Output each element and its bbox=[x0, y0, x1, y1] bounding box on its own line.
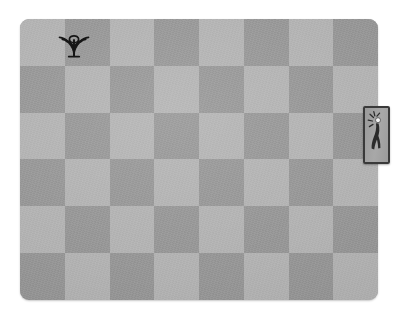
board-square bbox=[110, 206, 155, 253]
scene-root: Top-down photo of a grey checkerboard ma… bbox=[0, 0, 397, 319]
board-square bbox=[289, 159, 334, 206]
board-square bbox=[20, 206, 65, 253]
board-square bbox=[289, 253, 334, 300]
scene-description: Top-down photo of a grey checkerboard ma… bbox=[0, 0, 1, 1]
board-square bbox=[154, 19, 199, 66]
board-square bbox=[199, 113, 244, 160]
board-square bbox=[199, 253, 244, 300]
board-square bbox=[110, 159, 155, 206]
checkerboard-grid bbox=[20, 19, 378, 300]
board-square bbox=[244, 66, 289, 113]
board-square bbox=[154, 113, 199, 160]
board-square bbox=[154, 253, 199, 300]
board-square bbox=[154, 159, 199, 206]
board-square bbox=[110, 113, 155, 160]
board-square bbox=[333, 253, 378, 300]
board-square bbox=[110, 66, 155, 113]
board-square bbox=[244, 206, 289, 253]
board-square bbox=[199, 206, 244, 253]
board-square bbox=[20, 113, 65, 160]
board-square bbox=[65, 253, 110, 300]
board-square bbox=[199, 66, 244, 113]
board-square bbox=[110, 253, 155, 300]
board-square bbox=[20, 66, 65, 113]
checkerboard-container bbox=[20, 19, 378, 300]
board-square bbox=[154, 66, 199, 113]
menorah-icon bbox=[57, 31, 91, 61]
board-square bbox=[65, 159, 110, 206]
figure-marker-badge[interactable] bbox=[363, 106, 390, 164]
board-square bbox=[333, 159, 378, 206]
board-square bbox=[199, 159, 244, 206]
board-square bbox=[333, 19, 378, 66]
board-square bbox=[289, 19, 334, 66]
board-square bbox=[244, 159, 289, 206]
board-square bbox=[20, 253, 65, 300]
menorah-label: menorah bbox=[0, 0, 1, 1]
badge-label: figure marker bbox=[0, 0, 1, 1]
board-square bbox=[65, 206, 110, 253]
board-square bbox=[20, 159, 65, 206]
board-square bbox=[199, 19, 244, 66]
board-square bbox=[289, 113, 334, 160]
board-square bbox=[65, 66, 110, 113]
board-square bbox=[333, 206, 378, 253]
checkerboard-mat bbox=[20, 19, 378, 300]
board-square bbox=[289, 206, 334, 253]
board-square bbox=[244, 113, 289, 160]
board-square bbox=[110, 19, 155, 66]
board-square bbox=[244, 19, 289, 66]
board-square bbox=[289, 66, 334, 113]
board-square bbox=[154, 206, 199, 253]
board-square bbox=[65, 113, 110, 160]
board-square bbox=[244, 253, 289, 300]
